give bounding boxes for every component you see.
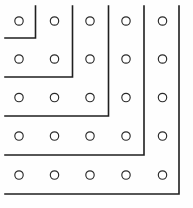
grid-dot-r3-c4 [122, 93, 130, 101]
grid-dot-r2-c2 [50, 55, 58, 63]
grid-dot-r3-c2 [50, 93, 58, 101]
grid-dot-r1-c3 [86, 17, 94, 25]
grid-dot-r4-c1 [15, 132, 23, 140]
gnomon-2 [5, 6, 73, 77]
grid-dot-r1-c5 [158, 17, 166, 25]
grid-dot-r1-c4 [122, 17, 130, 25]
grid-dot-r5-c1 [15, 171, 23, 179]
grid-dot-r2-c4 [122, 55, 130, 63]
grid-dot-r1-c1 [15, 17, 23, 25]
grid-dot-r2-c5 [158, 55, 166, 63]
grid-dot-r4-c3 [86, 132, 94, 140]
grid-dot-r2-c1 [15, 55, 23, 63]
grid-dot-r5-c5 [158, 171, 166, 179]
grid-dot-r4-c5 [158, 132, 166, 140]
grid-dot-r2-c3 [86, 55, 94, 63]
grid-dot-r3-c5 [158, 93, 166, 101]
grid-dot-r5-c2 [50, 171, 58, 179]
grid-dot-r3-c3 [86, 93, 94, 101]
grid-dot-r4-c2 [50, 132, 58, 140]
figure-canvas [0, 0, 193, 208]
grid-dot-r4-c4 [122, 132, 130, 140]
grid-dot-r1-c2 [50, 17, 58, 25]
diagram-svg [0, 0, 193, 208]
grid-dot-r3-c1 [15, 93, 23, 101]
grid-dot-r5-c3 [86, 171, 94, 179]
grid-dot-r5-c4 [122, 171, 130, 179]
